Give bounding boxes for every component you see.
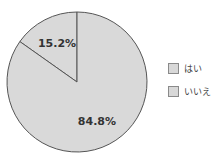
slice-label: 15.2% <box>38 37 76 50</box>
slice-label: 84.8% <box>78 115 116 128</box>
legend-swatch <box>168 63 179 74</box>
legend-item-no: いいえ <box>168 85 211 97</box>
legend-label: いいえ <box>184 85 211 98</box>
legend-item-yes: はい <box>168 62 211 74</box>
legend-swatch <box>168 86 179 97</box>
legend-label: はい <box>184 62 202 75</box>
legend: はい いいえ <box>168 62 211 108</box>
